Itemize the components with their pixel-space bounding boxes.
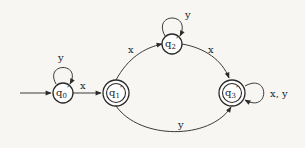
edge-q1-q3 bbox=[116, 106, 231, 132]
edge-label-q1-q2: x bbox=[128, 44, 134, 55]
edge-label-q0-q1: x bbox=[80, 80, 86, 91]
edge-label-q2-q3: x bbox=[208, 44, 214, 55]
diagram-canvas: y x x y x y x, y q0′ q1′ q2′ q3′ bbox=[0, 0, 305, 148]
edge-label-q0-q0: y bbox=[57, 52, 64, 63]
state-q2: q2′ bbox=[162, 34, 182, 54]
edge-label-q1-q3: y bbox=[177, 119, 184, 130]
edge-q2-q3 bbox=[182, 44, 229, 78]
edge-q2-q2 bbox=[162, 18, 182, 36]
state-q0: q0′ bbox=[53, 83, 73, 103]
edge-q3-q3 bbox=[245, 83, 264, 103]
edge-label-q2-q2: y bbox=[184, 9, 191, 20]
state-q1: q1′ bbox=[103, 80, 129, 106]
edge-q0-q0 bbox=[54, 68, 73, 85]
edge-label-q3-q3: x, y bbox=[270, 88, 288, 99]
automaton-diagram: y x x y x y x, y q0′ q1′ q2′ q3′ bbox=[0, 0, 305, 148]
state-q3: q3′ bbox=[219, 80, 245, 106]
edge-q1-q2 bbox=[116, 44, 162, 80]
